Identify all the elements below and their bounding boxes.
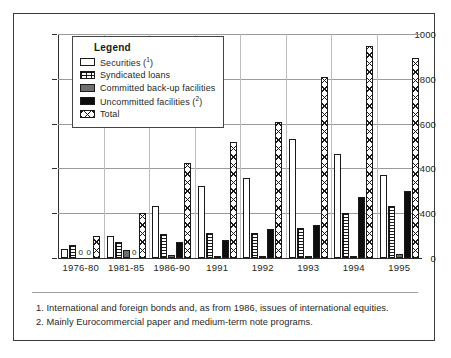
bar-total-1976-80 [93,236,100,258]
bar-total-1993 [321,77,328,258]
y-tick-mark [52,168,57,169]
legend-item-syndicated: Syndicated loans [80,69,216,80]
legend-item-committed: Committed back-up facilities [80,82,216,93]
bar-syndicated-1993 [297,228,304,258]
x-tick-label-1976-80: 1976-80 [63,262,99,273]
bar-syndicated-1994 [342,213,349,258]
bar-uncommitted-1991 [222,240,229,258]
bar-total-1994 [366,46,373,258]
bar-total-1992 [275,122,282,258]
bar-uncommitted-1986-90 [176,242,183,258]
bar-committed-1995 [396,254,403,258]
bar-committed-1981-85 [123,250,130,259]
legend-swatch-uncommitted [80,97,95,105]
legend-label-securities: Securities (1) [100,56,153,68]
y-tick-mark [52,124,57,125]
bar-syndicated-1976-80 [69,245,76,258]
bar-securities-1981-85 [107,236,114,258]
footnote-separator [32,292,418,293]
bar-syndicated-1995 [388,206,395,258]
legend-swatch-committed [80,84,95,92]
bar-uncommitted-1992 [267,229,274,258]
bar-syndicated-1992 [251,233,258,258]
x-tick-label-1993: 1993 [297,262,319,273]
footnotes: 1. International and foreign bonds and, … [36,301,420,329]
bar-securities-1986-90 [152,206,159,258]
footnote-1: 1. International and foreign bonds and, … [36,301,420,315]
y-tick-mark [52,34,57,35]
y-tick-mark [52,79,57,80]
x-tick-label-1986-90: 1986-90 [154,262,190,273]
bar-committed-1992 [259,256,266,258]
bar-total-1986-90 [184,163,191,258]
bar-securities-1994 [334,154,341,258]
chart-plot-wrap: 10008006004004000 000 1976-801981-851986… [14,14,436,272]
y-tick-mark [52,258,57,259]
legend-items: Securities (1)Syndicated loansCommitted … [80,56,216,119]
legend-swatch-syndicated [80,71,95,79]
bar-group-1995 [377,34,423,258]
bar-syndicated-1981-85 [115,242,122,258]
x-tick-label-1981-85: 1981-85 [108,262,144,273]
x-tick-label-1995: 1995 [388,262,410,273]
bar-securities-1995 [380,175,387,258]
bar-total-1981-85 [139,213,146,258]
bar-group-1994 [331,34,377,258]
legend-title: Legend [94,42,216,53]
bar-committed-1994 [350,256,357,258]
bar-securities-1993 [289,139,296,258]
bar-syndicated-1991 [206,233,213,258]
chart-legend: Legend Securities (1)Syndicated loansCom… [72,36,224,128]
bar-total-1991 [230,142,237,258]
x-tick-label-1991: 1991 [206,262,228,273]
bar-group-1993 [286,34,332,258]
bar-syndicated-1986-90 [160,234,167,258]
bar-securities-1976-80 [61,249,68,258]
bar-committed-1986-90 [168,255,175,258]
legend-item-total: Total [80,108,216,119]
legend-swatch-securities [80,58,95,66]
legend-label-total: Total [100,109,120,119]
bar-securities-1992 [243,178,250,258]
gridline-0 [58,258,422,259]
legend-item-securities: Securities (1) [80,56,216,67]
legend-label-uncommitted: Uncommitted facilities (2) [100,95,202,107]
x-tick-label-1994: 1994 [343,262,365,273]
bar-committed-1991 [214,256,221,258]
zero-marker-uncommitted-1981-85: 0 [131,249,138,258]
bar-uncommitted-1995 [404,191,411,258]
legend-label-committed: Committed back-up facilities [100,83,215,93]
figure-frame: 10008006004004000 000 1976-801981-851986… [13,13,435,341]
x-tick-label-1992: 1992 [252,262,274,273]
bar-committed-1993 [305,256,312,258]
zero-marker-committed-1976-80: 0 [77,249,84,258]
legend-item-uncommitted: Uncommitted facilities (2) [80,95,216,106]
y-tick-mark [52,213,57,214]
legend-label-syndicated: Syndicated loans [100,70,170,80]
bar-securities-1991 [198,186,205,258]
footnote-2: 2. Mainly Eurocommercial paper and mediu… [36,315,420,329]
bar-total-1995 [412,58,419,258]
bar-uncommitted-1993 [313,225,320,258]
bar-uncommitted-1994 [358,197,365,258]
zero-marker-uncommitted-1976-80: 0 [85,249,92,258]
legend-swatch-total [80,110,95,118]
bar-group-1992 [240,34,286,258]
